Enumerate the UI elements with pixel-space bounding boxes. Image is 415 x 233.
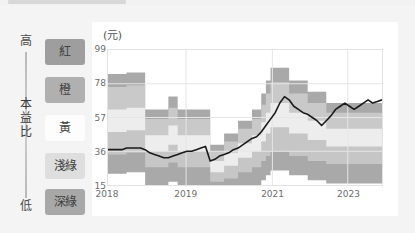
x-tick-2018: 2018	[87, 189, 127, 199]
chart-page: 高 本 益 比 低 紅 橙 黃 淺綠 深綠 (元) 9978573615 201…	[0, 5, 415, 233]
y-tick-36: 36	[84, 148, 106, 157]
x-tick-2019: 2019	[166, 189, 206, 199]
y-tick-99: 99	[84, 45, 106, 54]
chart-card: (元) 9978573615 2018201920212023	[92, 22, 398, 216]
x-axis-ticks: 2018201920212023	[107, 189, 383, 201]
y-tick-78: 78	[84, 79, 106, 88]
pe-axis-title-char-1: 益	[14, 111, 38, 125]
top-cutoff-bar	[8, 0, 126, 4]
pe-high-label: 高	[14, 35, 38, 48]
legend-item-darkgreen[interactable]: 深綠	[45, 189, 85, 215]
pe-river-chart-plot[interactable]	[107, 49, 383, 186]
pe-ratio-axis: 高 本 益 比 低	[14, 35, 38, 215]
y-tick-57: 57	[84, 114, 106, 123]
pe-low-label: 低	[14, 200, 38, 213]
x-tick-2021: 2021	[253, 189, 293, 199]
pe-axis-title-char-2: 比	[14, 125, 38, 139]
y-axis-ticks: 9978573615	[78, 44, 106, 192]
pe-axis-title-char-0: 本	[14, 97, 38, 111]
pe-axis-title: 本 益 比	[14, 97, 38, 139]
x-tick-2023: 2023	[329, 189, 369, 199]
chart-svg	[108, 50, 382, 185]
y-axis-unit-label: (元)	[103, 26, 122, 42]
